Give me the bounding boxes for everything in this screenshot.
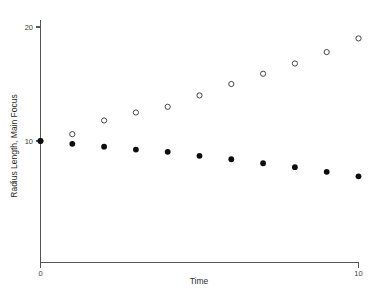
data-point: [70, 132, 75, 137]
data-point: [229, 81, 234, 86]
series-filled-circles: [38, 138, 362, 179]
data-point: [197, 93, 202, 98]
plot-area: 1020 010 Time Radius Length, Main Focus: [0, 0, 373, 293]
data-point: [133, 110, 138, 115]
data-point: [69, 141, 75, 147]
data-point: [292, 61, 297, 66]
data-point: [197, 153, 203, 159]
data-point: [324, 49, 329, 54]
data-point: [292, 164, 298, 170]
data-point: [324, 169, 330, 175]
data-point: [356, 173, 362, 179]
data-point: [101, 144, 107, 150]
series-open-circles: [38, 36, 361, 144]
data-point: [102, 118, 107, 123]
scatter-chart: 1020 010 Time Radius Length, Main Focus: [0, 0, 373, 293]
data-point: [261, 71, 266, 76]
y-tick-label: 10: [25, 137, 33, 146]
data-point: [38, 138, 44, 144]
data-point: [228, 156, 234, 162]
data-point: [165, 149, 171, 155]
y-tick-group: 1020: [25, 23, 41, 146]
x-axis-title: Time: [190, 276, 209, 286]
data-point: [356, 36, 361, 41]
data-point: [165, 104, 170, 109]
data-point: [260, 160, 266, 166]
x-tick-label: 0: [38, 269, 42, 278]
y-tick-label: 20: [25, 23, 33, 32]
x-tick-label: 10: [354, 269, 362, 278]
y-axis-title: Radius Length, Main Focus: [9, 94, 19, 197]
data-point: [133, 147, 139, 153]
